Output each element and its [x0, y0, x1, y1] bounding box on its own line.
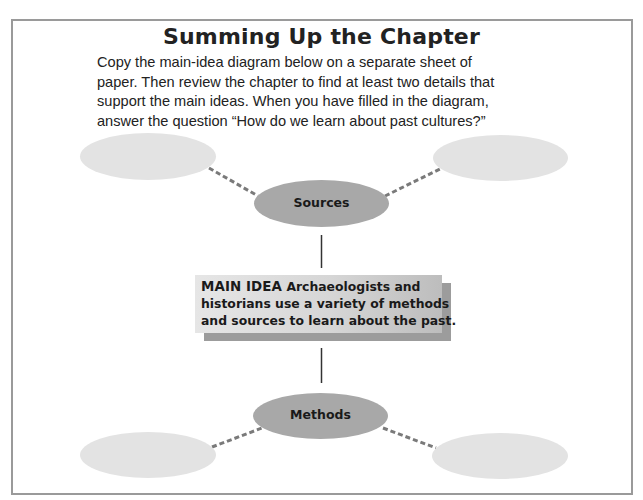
main-idea-line: historians use a variety of methods	[201, 295, 436, 312]
detail-oval-bottom-right[interactable]	[432, 433, 568, 479]
detail-oval-top-right[interactable]	[433, 135, 568, 181]
main-idea-line: MAIN IDEA Archaeologists and	[201, 278, 436, 295]
sources-label: Sources	[254, 195, 389, 210]
connector-top-left	[209, 168, 258, 196]
methods-label: Methods	[253, 407, 388, 422]
connector-bottom-right	[383, 428, 436, 448]
main-idea-line: and sources to learn about the past.	[201, 312, 436, 329]
main-idea-lead: MAIN IDEA	[201, 279, 282, 294]
connector-bottom-left	[212, 428, 262, 447]
connector-top-right	[385, 169, 440, 196]
detail-oval-bottom-left[interactable]	[80, 432, 216, 478]
main-idea-text: Archaeologists and	[286, 279, 420, 294]
main-idea-diagram	[0, 0, 643, 500]
main-idea-box: MAIN IDEA Archaeologists and historians …	[195, 275, 442, 333]
detail-oval-top-left[interactable]	[80, 133, 216, 180]
